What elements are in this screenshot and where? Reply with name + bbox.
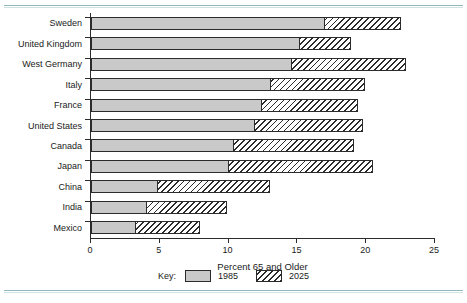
y-axis-tick <box>85 139 90 140</box>
x-axis-tick-label: 25 <box>429 245 439 255</box>
category-label: China <box>58 182 82 192</box>
x-axis-tick <box>90 238 91 243</box>
x-axis-tick-label: 15 <box>291 245 301 255</box>
legend-item-2025: 2025 <box>256 270 309 282</box>
x-axis-tick-label: 0 <box>87 245 92 255</box>
table-row <box>91 139 435 152</box>
bottom-divider-rule-secondary <box>4 292 463 293</box>
y-axis-tick <box>85 201 90 202</box>
table-row <box>91 180 435 193</box>
bar-segment-2025 <box>324 17 401 30</box>
bar-segment-1985 <box>91 37 300 50</box>
category-label: United States <box>28 121 82 131</box>
x-axis-tick <box>296 238 297 243</box>
hatched-swatch <box>256 270 282 282</box>
chart-legend: Key: 1985 2025 <box>0 270 467 282</box>
bar-segment-2025 <box>299 37 351 50</box>
legend-label-2025: 2025 <box>289 271 309 281</box>
bar-segment-1985 <box>91 180 158 193</box>
category-label: Japan <box>57 161 82 171</box>
bar-segment-2025 <box>270 78 365 91</box>
y-axis-tick <box>85 37 90 38</box>
y-axis-tick <box>85 17 90 18</box>
bar-segment-1985 <box>91 160 229 173</box>
bar-segment-2025 <box>233 139 354 152</box>
legend-label-1985: 1985 <box>218 271 238 281</box>
x-axis-tick <box>365 238 366 243</box>
x-axis-tick <box>159 238 160 243</box>
y-axis-tick <box>85 180 90 181</box>
top-divider-rule <box>4 5 463 6</box>
y-axis-tick <box>85 221 90 222</box>
table-row <box>91 17 435 30</box>
solid-gray-swatch <box>185 270 211 282</box>
y-axis-tick <box>85 160 90 161</box>
x-axis-tick-label: 5 <box>156 245 161 255</box>
bar-segment-1985 <box>91 201 147 214</box>
plot-area: SwedenUnited KingdomWest GermanyItalyFra… <box>90 13 434 238</box>
category-label: West Germany <box>22 59 82 69</box>
category-label: France <box>54 100 82 110</box>
category-label: United Kingdom <box>18 39 82 49</box>
bar-segment-2025 <box>228 160 373 173</box>
table-row <box>91 201 435 214</box>
table-row <box>91 221 435 234</box>
table-row <box>91 99 435 112</box>
bar-segment-1985 <box>91 221 136 234</box>
bar-segment-1985 <box>91 58 292 71</box>
x-axis-tick-label: 20 <box>360 245 370 255</box>
bar-segment-1985 <box>91 99 262 112</box>
bottom-divider-rule <box>4 290 463 291</box>
y-axis-tick <box>85 78 90 79</box>
chart-figure: SwedenUnited KingdomWest GermanyItalyFra… <box>0 0 467 303</box>
top-divider-rule-secondary <box>4 7 463 8</box>
category-label: India <box>62 202 82 212</box>
table-row <box>91 119 435 132</box>
y-axis-tick <box>85 99 90 100</box>
bar-segment-2025 <box>254 119 364 132</box>
bar-segment-2025 <box>261 99 358 112</box>
legend-title: Key: <box>158 271 176 281</box>
y-axis-tick <box>85 119 90 120</box>
table-row <box>91 37 435 50</box>
table-row <box>91 78 435 91</box>
legend-item-1985: 1985 <box>185 270 238 282</box>
category-label: Mexico <box>53 223 82 233</box>
bar-segment-1985 <box>91 119 255 132</box>
table-row <box>91 58 435 71</box>
x-axis-tick <box>434 238 435 243</box>
category-label: Canada <box>50 141 82 151</box>
category-label: Sweden <box>49 18 82 28</box>
bar-segment-2025 <box>157 180 269 193</box>
table-row <box>91 160 435 173</box>
bar-segment-2025 <box>146 201 227 214</box>
bar-segment-1985 <box>91 17 325 30</box>
x-axis-tick <box>228 238 229 243</box>
category-label: Italy <box>65 80 82 90</box>
x-axis-line <box>90 238 435 239</box>
bar-segment-1985 <box>91 139 234 152</box>
bar-segment-2025 <box>135 221 199 234</box>
x-axis-tick-label: 10 <box>223 245 233 255</box>
bar-segment-2025 <box>291 58 406 71</box>
y-axis-tick <box>85 58 90 59</box>
bar-segment-1985 <box>91 78 271 91</box>
